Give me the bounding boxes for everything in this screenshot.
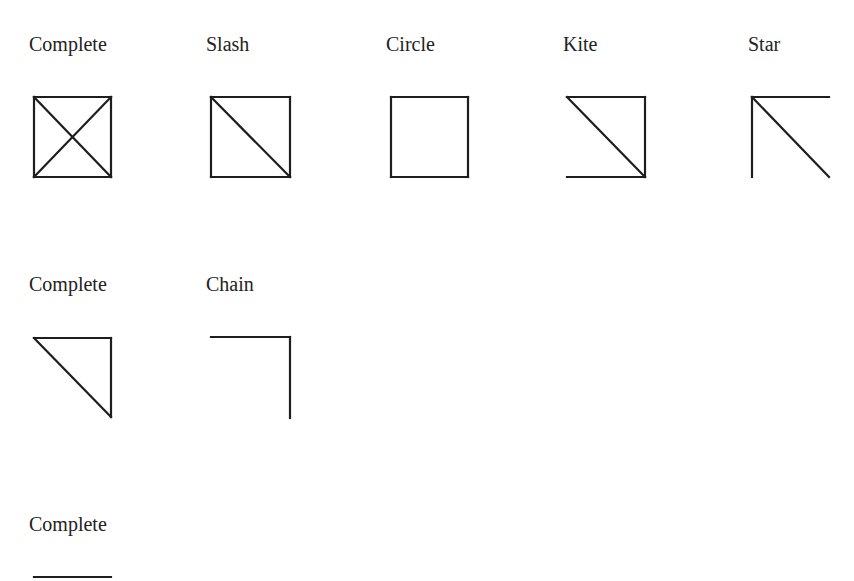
chain-graph-icon bbox=[211, 337, 290, 418]
star-graph-icon bbox=[752, 97, 829, 177]
slash-graph-icon bbox=[211, 97, 290, 177]
circle-graph-icon bbox=[391, 97, 468, 177]
kite-graph-icon bbox=[567, 97, 645, 177]
complete-4-graph-icon bbox=[34, 97, 111, 177]
topology-diagrams bbox=[0, 0, 854, 581]
complete-3-graph-icon bbox=[34, 338, 111, 417]
